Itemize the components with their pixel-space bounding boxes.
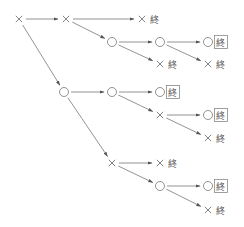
cross-icon (16, 16, 22, 22)
circle-icon (156, 182, 165, 191)
node-H (108, 88, 117, 97)
cross-icon (205, 207, 211, 213)
node-J (157, 112, 163, 118)
node-A (16, 16, 22, 22)
end-label: 終 (216, 59, 225, 70)
end-label: 終 (216, 37, 225, 48)
edge-arrow (118, 166, 153, 183)
cross-icon (139, 16, 145, 22)
circle-icon (108, 88, 117, 97)
circle-icon (204, 182, 213, 191)
node-I: 終 (156, 86, 180, 99)
circle-icon (204, 111, 213, 120)
nodes: 終終終終終終終終終終 (16, 14, 228, 216)
edges (23, 19, 201, 206)
circle-icon (204, 38, 213, 47)
node-N2: 終 (205, 205, 225, 216)
end-label: 終 (150, 14, 159, 25)
end-label: 終 (216, 133, 225, 144)
node-G (60, 88, 69, 97)
cross-icon (157, 112, 163, 118)
node-B (63, 16, 69, 22)
node-K2: 終 (205, 133, 225, 144)
tree-diagram: 終終終終終終終終終終 (0, 0, 244, 227)
node-D2: 終 (157, 59, 177, 70)
node-F: 終 (204, 36, 228, 49)
cross-icon (109, 160, 115, 166)
end-label: 終 (168, 59, 177, 70)
end-label: 終 (216, 110, 225, 121)
cross-icon (63, 16, 69, 22)
edge-arrow (118, 95, 153, 112)
cross-icon (205, 135, 211, 141)
node-E2: 終 (205, 59, 225, 70)
cross-icon (157, 160, 163, 166)
edge-arrow (72, 22, 105, 38)
edge-arrow (166, 118, 201, 135)
node-N: 終 (204, 180, 228, 193)
circle-icon (60, 88, 69, 97)
circle-icon (156, 88, 165, 97)
edge-arrow (118, 45, 152, 61)
node-C: 終 (139, 14, 159, 25)
node-L2: 終 (157, 158, 177, 169)
edge-arrow (68, 98, 108, 157)
cross-icon (157, 61, 163, 67)
node-L (109, 160, 115, 166)
node-E (156, 38, 165, 47)
circle-icon (156, 38, 165, 47)
edge-arrow (23, 25, 60, 85)
node-M (156, 182, 165, 191)
edge-arrow (166, 45, 200, 61)
end-label: 終 (216, 205, 225, 216)
end-label: 終 (216, 181, 225, 192)
node-K: 終 (204, 109, 228, 122)
edge-arrow (166, 189, 201, 206)
circle-icon (108, 38, 117, 47)
end-label: 終 (168, 87, 177, 98)
node-D (108, 38, 117, 47)
cross-icon (205, 61, 211, 67)
end-label: 終 (168, 158, 177, 169)
